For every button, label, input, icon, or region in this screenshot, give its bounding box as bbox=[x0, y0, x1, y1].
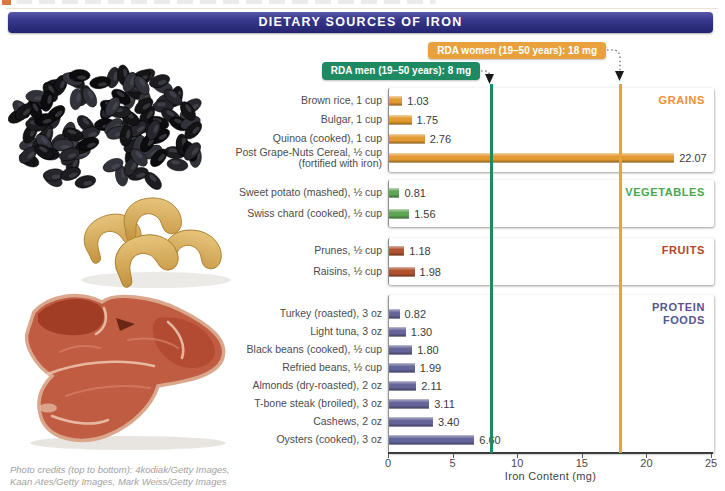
cropped-caption-text bbox=[16, 0, 436, 4]
bar-grains bbox=[389, 153, 674, 162]
bar-vegetables bbox=[389, 210, 409, 219]
bar-protein-foods bbox=[389, 346, 412, 355]
bar-fruits bbox=[389, 268, 415, 277]
food-label-text: Bulgar, 1 cup bbox=[321, 113, 382, 125]
rda-line-women bbox=[619, 84, 622, 453]
axis-tick-label: 5 bbox=[450, 457, 456, 469]
food-label: Cashews, 2 oz bbox=[5, 416, 382, 428]
food-label: Almonds (dry-roasted), 2 oz bbox=[5, 380, 382, 392]
bar-protein-foods bbox=[389, 436, 474, 445]
food-label-text: Prunes, ½ cup bbox=[314, 244, 382, 256]
photo-credits-line1: Photo credits (top to bottom): 4kodiak/G… bbox=[10, 464, 230, 475]
category-panel-protein-foods: PROTEIN FOODS bbox=[388, 295, 714, 453]
bar-value: 1.56 bbox=[414, 208, 435, 220]
axis-tick-label: 20 bbox=[640, 457, 652, 469]
bar-grains bbox=[389, 96, 402, 105]
category-label-grains: GRAINS bbox=[659, 94, 705, 107]
bar-value: 1.03 bbox=[407, 95, 428, 107]
food-label-text-line2: (fortified with iron) bbox=[5, 158, 382, 170]
photo-credits: Photo credits (top to bottom): 4kodiak/G… bbox=[10, 464, 230, 487]
bar-value: 1.99 bbox=[420, 362, 441, 374]
bar-vegetables bbox=[389, 188, 399, 197]
bar-value: 0.82 bbox=[405, 308, 426, 320]
food-label: Quinoa (cooked), 1 cup bbox=[5, 133, 382, 145]
rda-men-badge: RDA men (19–50 years): 8 mg bbox=[322, 62, 480, 80]
bar-value: 22.07 bbox=[679, 152, 707, 164]
food-label-text: T-bone steak (broiled), 3 oz bbox=[254, 397, 382, 409]
food-label: Swiss chard (cooked), ½ cup bbox=[5, 209, 382, 221]
food-label-text: Post Grape-Nuts Cereal, ½ cup bbox=[236, 145, 382, 157]
food-label-text: Turkey (roasted), 3 oz bbox=[280, 307, 382, 319]
bar-value: 1.30 bbox=[411, 326, 432, 338]
food-label-text: Light tuna, 3 oz bbox=[310, 325, 382, 337]
food-label: Post Grape-Nuts Cereal, ½ cup(fortified … bbox=[5, 146, 382, 169]
x-axis-line bbox=[388, 452, 713, 454]
rda-women-badge: RDA women (19–50 years): 18 mg bbox=[428, 42, 606, 59]
photo-credits-line2: Kaan Ates/Getty Images, Mark Weiss/Getty… bbox=[10, 476, 226, 487]
food-label: Brown rice, 1 cup bbox=[5, 95, 382, 107]
food-label: Turkey (roasted), 3 oz bbox=[5, 308, 382, 320]
x-axis-title: Iron Content (mg) bbox=[388, 470, 713, 482]
food-label: Light tuna, 3 oz bbox=[5, 326, 382, 338]
bar-value: 1.80 bbox=[417, 344, 438, 356]
food-label-text: Raisins, ½ cup bbox=[313, 266, 382, 278]
page-title: DIETARY SOURCES OF IRON bbox=[8, 12, 713, 33]
bar-value: 1.18 bbox=[409, 245, 430, 257]
food-label-text: Black beans (cooked), ½ cup bbox=[247, 343, 382, 355]
category-label-vegetables: VEGETABLES bbox=[625, 186, 705, 199]
food-label: Black beans (cooked), ½ cup bbox=[5, 344, 382, 356]
category-panel-vegetables: VEGETABLES bbox=[388, 180, 714, 227]
food-label-text: Brown rice, 1 cup bbox=[301, 94, 382, 106]
bar-grains bbox=[389, 115, 412, 124]
category-label-protein-foods: PROTEIN FOODS bbox=[652, 301, 705, 327]
bar-protein-foods bbox=[389, 400, 429, 409]
bar-value: 2.76 bbox=[430, 133, 451, 145]
food-label-text: Sweet potato (mashed), ½ cup bbox=[239, 186, 382, 198]
bar-fruits bbox=[389, 246, 404, 255]
food-label: Prunes, ½ cup bbox=[5, 245, 382, 257]
food-label-text: Cashews, 2 oz bbox=[313, 415, 382, 427]
food-label: Refried beans, ½ cup bbox=[5, 362, 382, 374]
bar-protein-foods bbox=[389, 382, 416, 391]
bar-protein-foods bbox=[389, 328, 406, 337]
food-label: T-bone steak (broiled), 3 oz bbox=[5, 398, 382, 410]
bar-protein-foods bbox=[389, 364, 415, 373]
food-label-text: Swiss chard (cooked), ½ cup bbox=[247, 208, 382, 220]
bar-value: 3.40 bbox=[438, 416, 459, 428]
bar-value: 1.98 bbox=[420, 266, 441, 278]
food-label-text: Quinoa (cooked), 1 cup bbox=[273, 132, 382, 144]
bar-protein-foods bbox=[389, 418, 433, 427]
caption-bullet-icon bbox=[2, 0, 11, 5]
food-label-text: Oysters (cooked), 3 oz bbox=[276, 433, 382, 445]
food-label: Raisins, ½ cup bbox=[5, 267, 382, 279]
rda-line-men bbox=[490, 84, 493, 453]
axis-tick-label: 15 bbox=[576, 457, 588, 469]
bar-value: 2.11 bbox=[421, 380, 442, 392]
top-divider bbox=[6, 8, 718, 9]
food-label: Bulgar, 1 cup bbox=[5, 114, 382, 126]
category-label-fruits: FRUITS bbox=[662, 244, 705, 257]
food-label: Sweet potato (mashed), ½ cup bbox=[5, 187, 382, 199]
bar-value: 1.75 bbox=[417, 114, 438, 126]
bar-grains bbox=[389, 134, 425, 143]
bar-value: 3.11 bbox=[434, 398, 455, 410]
food-label-text: Refried beans, ½ cup bbox=[282, 361, 382, 373]
axis-tick-label: 10 bbox=[511, 457, 523, 469]
axis-tick-label: 0 bbox=[385, 457, 391, 469]
food-label: Oysters (cooked), 3 oz bbox=[5, 434, 382, 446]
infographic-page: DIETARY SOURCES OF IRON RDA women (19–50… bbox=[0, 0, 725, 491]
bar-protein-foods bbox=[389, 310, 400, 319]
axis-tick-label: 25 bbox=[705, 457, 717, 469]
bar-value: 0.81 bbox=[404, 187, 425, 199]
food-label-text: Almonds (dry-roasted), 2 oz bbox=[252, 379, 382, 391]
